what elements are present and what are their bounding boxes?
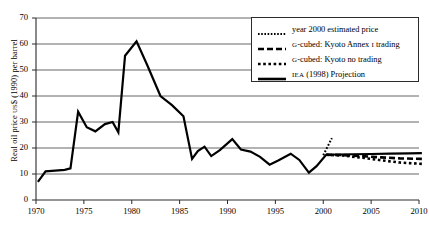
y-tick-label: 50: [8, 64, 28, 74]
legend-swatch-dotted: [257, 25, 287, 35]
chart-root: Real oil price US$ (1990) per barrel 010…: [0, 0, 429, 230]
legend-item-iea: IEA (1998) Projection: [257, 67, 418, 82]
x-tick-label: 2010: [399, 206, 429, 216]
legend-item-annex-trading: G-cubed: Kyoto Annex I trading: [257, 37, 418, 52]
x-tick-label: 2005: [351, 206, 391, 216]
legend-label-no-trading: G-cubed: Kyoto no trading: [292, 55, 382, 64]
legend-label-annex-trading: G-cubed: Kyoto Annex I trading: [292, 40, 400, 49]
y-tick-label: 20: [8, 142, 28, 152]
legend-iea-prefix: IEA: [292, 71, 304, 78]
legend-label-iea: IEA (1998) Projection: [292, 70, 365, 79]
x-tick-label: 2000: [303, 206, 343, 216]
legend-item-no-trading: G-cubed: Kyoto no trading: [257, 52, 418, 67]
y-tick-label: 10: [8, 168, 28, 178]
y-tick-label: 60: [8, 38, 28, 48]
x-tick-label: 1990: [208, 206, 248, 216]
x-tick-label: 1980: [112, 206, 152, 216]
y-tick-label: 0: [8, 194, 28, 204]
legend-annex-tail: trading: [374, 40, 400, 49]
legend-iea-body: (1998) Projection: [304, 70, 365, 79]
chart-legend: year 2000 estimated price G-cubed: Kyoto…: [251, 17, 419, 82]
legend-swatch-dashed: [257, 40, 287, 50]
legend-label-est2000: year 2000 estimated price: [292, 25, 378, 34]
y-tick-label: 30: [8, 116, 28, 126]
legend-no-trading-body: -cubed: Kyoto no trading: [297, 55, 381, 64]
legend-item-est2000: year 2000 estimated price: [257, 22, 418, 37]
x-tick-label: 1970: [16, 206, 56, 216]
y-tick-label: 40: [8, 90, 28, 100]
legend-annex-body: -cubed: Kyoto Annex: [297, 40, 371, 49]
y-tick-label: 70: [8, 12, 28, 22]
x-tick-label: 1975: [64, 206, 104, 216]
x-tick-label: 1995: [255, 206, 295, 216]
x-tick-label: 1985: [160, 206, 200, 216]
legend-swatch-dotted-thick: [257, 55, 287, 65]
legend-swatch-solid: [257, 70, 287, 80]
series-line-est2000: [323, 138, 332, 155]
